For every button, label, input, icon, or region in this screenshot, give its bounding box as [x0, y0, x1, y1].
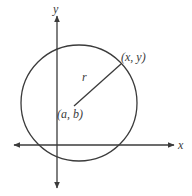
y-axis-label: y	[53, 3, 58, 15]
radius-label: r	[82, 71, 87, 83]
circle-figure: y x (x, y) (a, b) r	[0, 0, 192, 196]
x-axis-label: x	[178, 139, 183, 151]
figure-canvas	[0, 0, 192, 196]
point-on-circle-label: (x, y)	[121, 51, 146, 63]
center-point-label: (a, b)	[57, 108, 83, 120]
circle-shape	[21, 45, 137, 161]
